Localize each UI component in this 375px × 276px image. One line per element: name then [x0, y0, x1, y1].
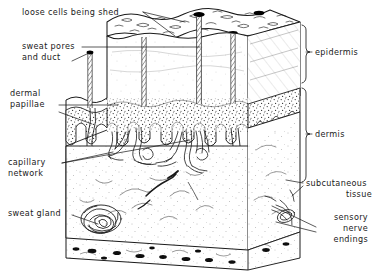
epidermis-bracket: [302, 25, 310, 83]
label-epidermis: epidermis: [315, 47, 358, 58]
dermis-bracket: [302, 88, 310, 182]
label-subcutaneous-tissue-line1: subcutaneous: [306, 178, 367, 189]
label-sweat-pores-line2: and duct: [22, 52, 61, 63]
label-sensory-nerve-endings-line1: sensory: [306, 212, 368, 223]
sweat-pore-opening: [193, 12, 204, 17]
label-capillary-network-line1: capillary: [8, 157, 46, 168]
label-sweat-pores-line1: sweat pores: [22, 41, 75, 52]
label-dermal-papillae-line2: papillae: [10, 99, 45, 110]
label-dermal-papillae-line1: dermal: [10, 88, 41, 99]
label-dermis: dermis: [315, 129, 345, 140]
label-subcutaneous-tissue-line2: tissue: [306, 189, 372, 200]
label-sensory-nerve-endings-line2: nerve: [306, 223, 368, 234]
layer-brackets: [302, 25, 310, 182]
label-sweat-gland: sweat gland: [8, 208, 61, 219]
label-loose-cells-being-shed: loose cells being shed: [22, 7, 119, 18]
sweat-pore-opening: [254, 11, 265, 16]
label-capillary-network-line2: network: [8, 168, 43, 179]
skin-diagram-figure: loose cells being shed sweat pores and d…: [0, 0, 375, 276]
label-sensory-nerve-endings-line3: endings: [306, 234, 368, 245]
